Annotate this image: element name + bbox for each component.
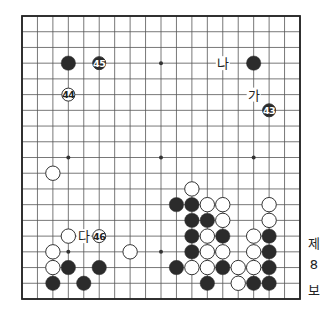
- white-stone-icon: [231, 260, 245, 274]
- move-number: 44: [62, 89, 75, 100]
- white-stone-icon: [231, 276, 245, 290]
- black-stone-icon: [200, 213, 214, 227]
- white-stone-icon: [200, 260, 214, 274]
- white-stone-icon: [46, 166, 60, 180]
- black-stone-icon: [61, 260, 75, 274]
- white-stone-icon: [200, 197, 214, 211]
- numbered-stone: 45: [93, 57, 106, 70]
- white-stone-icon: [246, 260, 260, 274]
- black-stone-icon: [77, 276, 91, 290]
- black-stone-icon: [262, 260, 276, 274]
- star-point-icon: [159, 61, 163, 65]
- white-stone-icon: [262, 197, 276, 211]
- numbered-stone: 46: [93, 230, 106, 243]
- caption-line-1: 제: [306, 233, 322, 252]
- white-stone-icon: [246, 245, 260, 259]
- black-stone-icon: [92, 260, 106, 274]
- black-stone-icon: [46, 276, 60, 290]
- white-stone-icon: [200, 245, 214, 259]
- white-stone-icon: [61, 229, 75, 243]
- move-number: 43: [263, 105, 275, 116]
- black-stone-icon: [262, 245, 276, 259]
- black-stone-icon: [169, 260, 183, 274]
- numbered-stone: 43: [263, 104, 276, 117]
- black-stone-icon: [185, 229, 199, 243]
- black-stone-icon: [262, 229, 276, 243]
- white-stone-icon: [185, 260, 199, 274]
- star-point-icon: [252, 156, 256, 160]
- white-stone-icon: [123, 245, 137, 259]
- star-point-icon: [66, 156, 70, 160]
- black-stone-icon: [246, 56, 260, 70]
- white-stone-icon: [46, 245, 60, 259]
- white-stone-icon: [216, 245, 230, 259]
- star-point-icon: [159, 156, 163, 160]
- star-point-icon: [66, 250, 70, 254]
- numbered-stone: 44: [62, 88, 75, 101]
- white-stone-icon: [246, 229, 260, 243]
- black-stone-icon: [61, 56, 75, 70]
- move-number: 46: [93, 231, 106, 242]
- letter-mark: 나: [217, 56, 229, 71]
- black-stone-icon: [169, 197, 183, 211]
- white-stone-icon: [216, 213, 230, 227]
- black-stone-icon: [185, 245, 199, 259]
- white-stone-icon: [46, 260, 60, 274]
- move-number: 45: [93, 58, 105, 69]
- letter-mark: 다: [78, 229, 90, 244]
- black-stone-icon: [216, 260, 230, 274]
- black-stone-icon: [200, 276, 214, 290]
- black-stone-icon: [185, 213, 199, 227]
- caption-line-2: 8: [306, 257, 322, 272]
- black-stone-icon: [216, 229, 230, 243]
- star-point-icon: [159, 250, 163, 254]
- go-board-diagram: 43444546 가나다: [0, 0, 328, 321]
- black-stone-icon: [246, 276, 260, 290]
- white-stone-icon: [200, 229, 214, 243]
- white-stone-icon: [216, 197, 230, 211]
- letter-marks-layer: 가나다: [77, 56, 261, 244]
- black-stone-icon: [262, 276, 276, 290]
- letter-mark: 가: [248, 88, 260, 103]
- white-stone-icon: [262, 213, 276, 227]
- black-stone-icon: [185, 197, 199, 211]
- caption-line-3: 보: [306, 280, 322, 299]
- white-stone-icon: [185, 182, 199, 196]
